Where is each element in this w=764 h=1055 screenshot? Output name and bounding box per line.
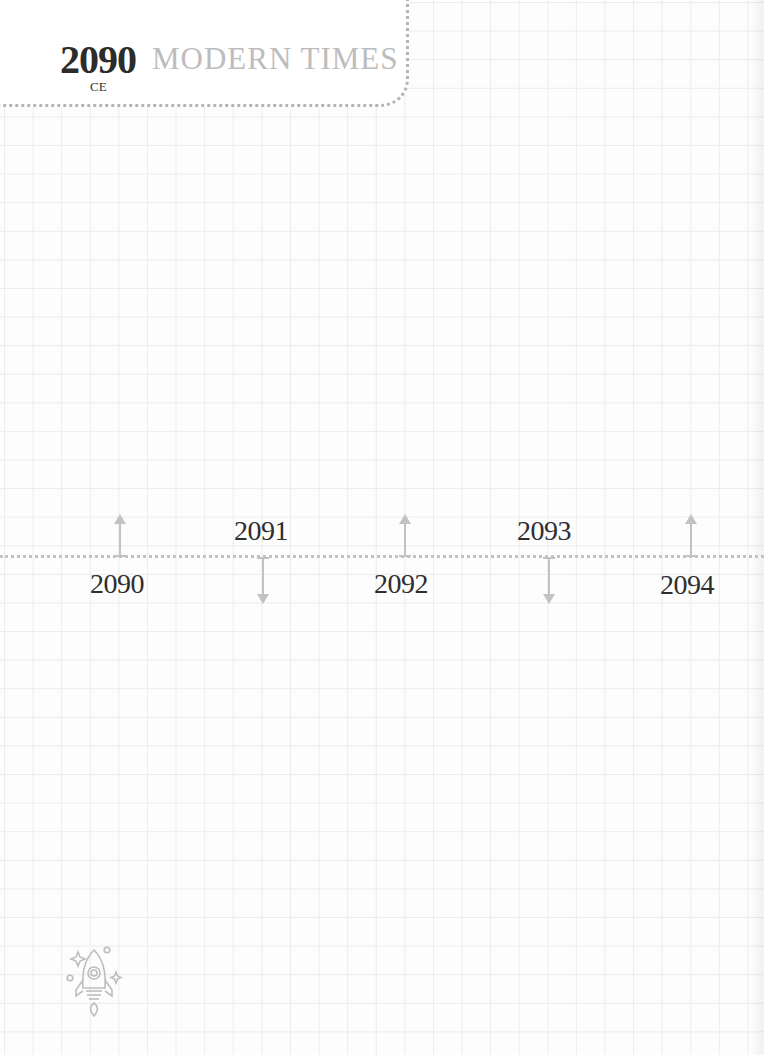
page-title: MODERN TIMES: [152, 41, 399, 77]
timeline-arrow-down-icon: [543, 557, 555, 604]
timeline-year-2091: 2091: [234, 515, 288, 547]
timeline-arrow-up-icon: [114, 514, 126, 557]
page-edge-shadow: [750, 0, 764, 1055]
timeline-year-2090: 2090: [90, 568, 144, 600]
timeline-year-2094: 2094: [660, 569, 714, 601]
timeline-year-2093: 2093: [517, 515, 571, 547]
timeline-arrow-up-icon: [399, 514, 411, 557]
timeline-year-2092: 2092: [374, 568, 428, 600]
header-year: 2090: [60, 36, 136, 83]
rocket-icon: [62, 944, 126, 1024]
header-era: CE: [90, 79, 107, 95]
timeline-arrow-down-icon: [257, 557, 269, 604]
timeline-arrow-up-icon: [685, 514, 697, 557]
